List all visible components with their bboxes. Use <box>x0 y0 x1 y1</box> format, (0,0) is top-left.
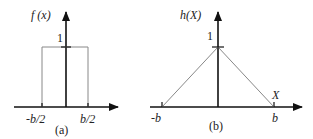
left-tick-label-a: -b/2 <box>26 112 45 126</box>
panel-a: f (x) 1 -b/2 b/2 (a) <box>14 8 118 137</box>
diagram: f (x) 1 -b/2 b/2 (a) h(X) 1 X -b b (b) <box>0 0 313 139</box>
panel-b: h(X) 1 X -b b (b) <box>150 8 302 133</box>
y-label-a: f (x) <box>31 8 51 22</box>
y-label-b: h(X) <box>180 8 201 22</box>
right-tick-label-a: b/2 <box>80 112 95 126</box>
right-tick-label-b: b <box>272 111 278 125</box>
caption-a: (a) <box>55 123 68 137</box>
peak-label-b: 1 <box>207 29 213 43</box>
axis-label-b: X <box>271 88 280 102</box>
left-tick-label-b: -b <box>151 111 161 125</box>
peak-label-a: 1 <box>57 31 63 45</box>
rect-function <box>42 47 88 107</box>
caption-b: (b) <box>209 119 223 133</box>
